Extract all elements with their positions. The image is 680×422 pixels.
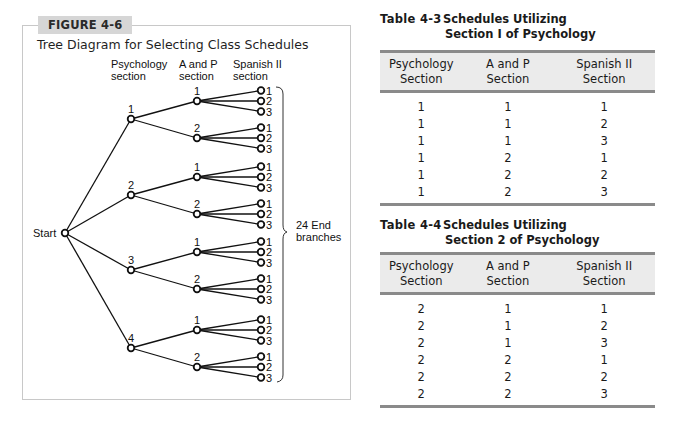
anp-node-label: 2 <box>194 273 200 285</box>
start-node <box>62 230 69 237</box>
column-header-spanish-section: Spanish IISection <box>553 52 655 92</box>
psychology-node-4 <box>128 345 135 352</box>
spanish-node-2 <box>258 98 265 105</box>
spanish-node-label: 3 <box>266 182 272 194</box>
column-header-psychology-line1: Psychology <box>111 58 168 70</box>
spanish-node-label: 3 <box>266 219 272 231</box>
column-header-psychology-line2: section <box>111 70 146 82</box>
anp-node-label: 1 <box>194 236 200 248</box>
table-row: 213 <box>380 335 655 352</box>
start-label: Start <box>33 227 56 239</box>
anp-node-1 <box>194 174 201 181</box>
table-4-4: PsychologySection A and PSection Spanish… <box>380 252 655 408</box>
table-4-4-title-line2: Section 2 of Psychology <box>380 233 599 248</box>
spanish-node-1 <box>258 163 265 170</box>
table-row: 111 <box>380 92 655 117</box>
spanish-node-3 <box>258 184 265 191</box>
psychology-node-label: 3 <box>128 254 134 266</box>
anp-node-2 <box>194 211 201 218</box>
table-4-4-caption: Table 4-4Schedules Utilizing Section 2 o… <box>380 218 599 248</box>
psychology-node-label: 2 <box>128 179 134 191</box>
table-row: 113 <box>380 133 655 150</box>
tree-diagram: Psychology section A and P section Spani… <box>0 0 360 410</box>
spanish-node-1 <box>258 124 265 131</box>
spanish-node-label: 3 <box>266 257 272 269</box>
anp-node-2 <box>194 135 201 142</box>
column-header-anp-section: A and PSection <box>463 254 554 294</box>
table-4-4-number: Table 4-4 <box>380 218 443 233</box>
tree-edges <box>65 91 261 378</box>
spanish-node-label: 3 <box>266 106 272 118</box>
anp-node-label: 2 <box>194 351 200 363</box>
anp-node-label: 2 <box>194 198 200 210</box>
psychology-node-1 <box>128 116 135 123</box>
spanish-node-2 <box>258 364 265 371</box>
table-row: 222 <box>380 369 655 386</box>
table-header-row: PsychologySection A and PSection Spanish… <box>380 254 655 294</box>
spanish-node-2 <box>258 286 265 293</box>
anp-node-1 <box>194 327 201 334</box>
anp-node-2 <box>194 286 201 293</box>
spanish-node-2 <box>258 135 265 142</box>
spanish-node-2 <box>258 327 265 334</box>
psychology-node-3 <box>128 267 135 274</box>
column-header-spanish-line1: Spanish II <box>233 58 282 70</box>
column-header-psychology-section: PsychologySection <box>380 52 463 92</box>
table-4-3-title-line1: Schedules Utilizing <box>443 12 567 26</box>
spanish-node-label: 3 <box>266 294 272 306</box>
table-row: 121 <box>380 150 655 167</box>
end-branches-brace <box>276 87 287 382</box>
table-row: 211 <box>380 294 655 319</box>
spanish-node-2 <box>258 211 265 218</box>
anp-node-label: 1 <box>194 161 200 173</box>
column-header-anp-line2: section <box>179 70 214 82</box>
spanish-node-label: 3 <box>266 143 272 155</box>
psychology-node-label: 4 <box>128 332 134 344</box>
table-row: 221 <box>380 352 655 369</box>
column-header-spanish-section: Spanish IISection <box>553 254 655 294</box>
spanish-node-3 <box>258 259 265 266</box>
brace-label-line1: 24 End <box>296 219 331 231</box>
table-header-row: PsychologySection A and PSection Spanish… <box>380 52 655 92</box>
spanish-node-label: 3 <box>266 335 272 347</box>
anp-node-1 <box>194 249 201 256</box>
psychology-node-2 <box>128 192 135 199</box>
table-row: 212 <box>380 318 655 335</box>
spanish-node-3 <box>258 108 265 115</box>
table-4-3-title-line2: Section I of Psychology <box>380 27 596 42</box>
tree-nodes <box>62 87 265 381</box>
anp-node-label: 1 <box>194 314 200 326</box>
spanish-node-3 <box>258 145 265 152</box>
spanish-node-1 <box>258 316 265 323</box>
anp-node-label: 1 <box>194 85 200 97</box>
table-4-3: PsychologySection A and PSection Spanish… <box>380 50 655 206</box>
column-header-anp-section: A and PSection <box>463 52 554 92</box>
anp-node-2 <box>194 364 201 371</box>
table-4-3-number: Table 4-3 <box>380 12 443 27</box>
anp-node-label: 2 <box>194 122 200 134</box>
table-row: 112 <box>380 116 655 133</box>
spanish-node-1 <box>258 353 265 360</box>
table-row: 223 <box>380 386 655 407</box>
table-4-3-caption: Table 4-3Schedules Utilizing Section I o… <box>380 12 596 42</box>
table-4-4-title-line1: Schedules Utilizing <box>443 218 567 232</box>
brace-label-line2: branches <box>296 231 342 243</box>
spanish-node-1 <box>258 87 265 94</box>
spanish-node-2 <box>258 174 265 181</box>
spanish-node-2 <box>258 249 265 256</box>
spanish-node-1 <box>258 200 265 207</box>
spanish-node-3 <box>258 374 265 381</box>
spanish-node-3 <box>258 221 265 228</box>
spanish-node-label: 3 <box>266 372 272 384</box>
anp-node-1 <box>194 98 201 105</box>
column-header-anp-line1: A and P <box>179 58 218 70</box>
column-header-spanish-line2: section <box>233 70 268 82</box>
spanish-node-1 <box>258 275 265 282</box>
spanish-node-3 <box>258 296 265 303</box>
psychology-node-label: 1 <box>128 103 134 115</box>
spanish-node-1 <box>258 238 265 245</box>
column-header-psychology-section: PsychologySection <box>380 254 463 294</box>
spanish-node-3 <box>258 337 265 344</box>
table-row: 123 <box>380 184 655 205</box>
table-row: 122 <box>380 167 655 184</box>
